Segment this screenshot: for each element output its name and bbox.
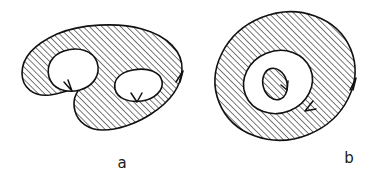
figure-canvas: a b: [0, 0, 379, 192]
panel-a-hatch-fill: [0, 0, 200, 150]
panel-b-label: b: [344, 149, 354, 167]
panel-a-hole-right: [115, 69, 163, 101]
panel-b: b: [196, 0, 379, 167]
panel-a-hole-left: [48, 49, 98, 91]
panel-a: a: [0, 0, 200, 172]
panel-a-label: a: [117, 154, 126, 172]
figure-root: a b: [0, 0, 379, 192]
